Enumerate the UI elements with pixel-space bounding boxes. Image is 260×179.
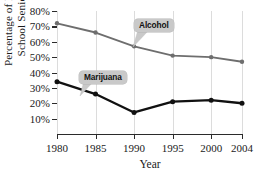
x-tick-label-1980: 1980 (46, 142, 68, 154)
gridline-2004 (242, 11, 243, 134)
data-point-marijuana-2004 (240, 101, 245, 106)
data-point-alcohol-1995 (170, 53, 174, 57)
y-axis-title: Percentage of High School Seniors (1, 0, 29, 81)
x-tick-1995 (173, 134, 174, 139)
x-axis-line (57, 134, 243, 135)
data-point-alcohol-2004 (240, 60, 244, 64)
x-tick-label-1985: 1985 (85, 142, 107, 154)
series-line-marijuana (57, 82, 242, 113)
y-tick-label-70: 70% (30, 20, 50, 32)
data-point-marijuana-1990 (132, 110, 137, 115)
series-label-marijuana: Marijuana (79, 71, 127, 84)
x-tick-label-2004: 2004 (231, 142, 253, 154)
y-tick-label-20: 20% (30, 97, 50, 109)
data-point-alcohol-1985 (93, 30, 97, 34)
data-point-alcohol-2000 (209, 55, 213, 59)
line-chart: Percentage of High School Seniors 10%20%… (0, 0, 260, 179)
x-tick-2000 (211, 134, 212, 139)
x-tick-2004 (242, 134, 243, 139)
y-tick-label-80: 80% (30, 5, 50, 17)
x-tick-1980 (57, 134, 58, 139)
y-tick-label-50: 50% (30, 51, 50, 63)
x-tick-1990 (134, 134, 135, 139)
y-tick-label-10: 10% (30, 113, 50, 125)
series-label-alcohol: Alcohol (134, 19, 174, 32)
x-tick-label-2000: 2000 (200, 142, 222, 154)
data-point-marijuana-1980 (55, 79, 60, 84)
data-point-marijuana-1985 (93, 92, 98, 97)
y-axis-title-line-2: School Seniors (15, 0, 28, 56)
x-axis-title: Year (57, 158, 243, 170)
y-tick-label-60: 60% (30, 36, 50, 48)
y-tick-label-40: 40% (30, 67, 50, 79)
data-point-alcohol-1990 (132, 44, 136, 48)
data-point-marijuana-2000 (209, 98, 214, 103)
y-tick-label-30: 30% (30, 82, 50, 94)
x-tick-label-1990: 1990 (123, 142, 145, 154)
data-point-alcohol-1980 (55, 21, 59, 25)
y-axis-title-line-1: Percentage of High (2, 0, 15, 66)
x-tick-label-1995: 1995 (162, 142, 184, 154)
x-tick-1985 (96, 134, 97, 139)
data-point-marijuana-1995 (170, 99, 175, 104)
